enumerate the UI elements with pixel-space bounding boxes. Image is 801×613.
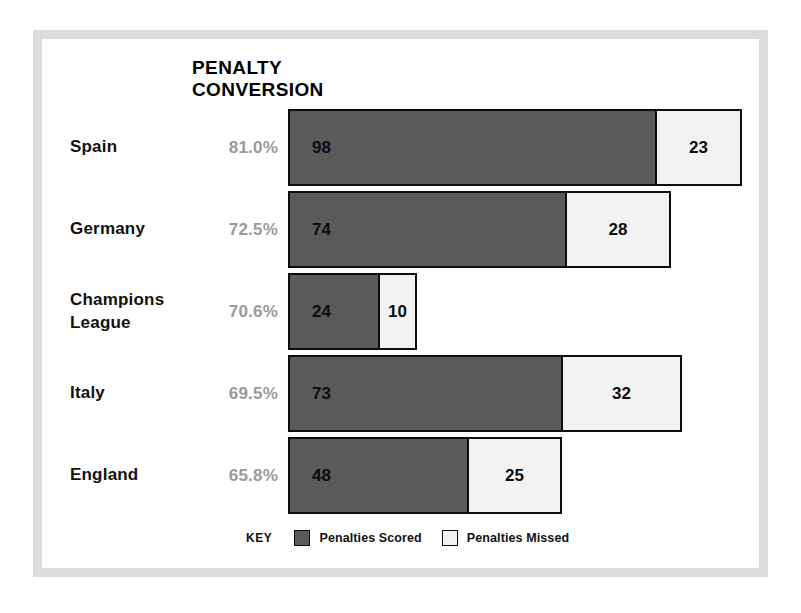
legend-key-label: KEY bbox=[246, 531, 272, 545]
row-label-line: Germany bbox=[70, 218, 200, 241]
bar-value-scored: 48 bbox=[312, 466, 331, 486]
chart-frame: PENALTY CONVERSION Spain 81.0% 98 23 bbox=[33, 30, 768, 577]
bar-value-scored: 73 bbox=[312, 384, 331, 404]
bar-value-missed: 10 bbox=[388, 302, 407, 322]
row-label: Champions League bbox=[70, 273, 200, 350]
bar-value-missed: 25 bbox=[505, 466, 524, 486]
chart-title: PENALTY CONVERSION bbox=[192, 57, 422, 102]
legend-label-missed: Penalties Missed bbox=[467, 531, 569, 545]
legend-label-scored: Penalties Scored bbox=[319, 531, 421, 545]
chart-rows: Spain 81.0% 98 23 Germany 72.5% bbox=[42, 109, 759, 519]
bar-segment-missed[interactable]: 23 bbox=[655, 109, 742, 186]
bar-value-scored: 24 bbox=[312, 302, 331, 322]
row-label-line: Champions bbox=[70, 289, 200, 312]
row-label: Spain bbox=[70, 109, 200, 186]
stacked-bar: 24 10 bbox=[288, 273, 417, 350]
row-label: Germany bbox=[70, 191, 200, 268]
row-label: England bbox=[70, 437, 200, 514]
bar-segment-scored[interactable]: 74 bbox=[288, 191, 567, 268]
chart-row: Italy 69.5% 73 32 bbox=[42, 355, 759, 432]
chart-row: England 65.8% 48 25 bbox=[42, 437, 759, 514]
row-label-line: League bbox=[70, 312, 200, 335]
bar-segment-scored[interactable]: 24 bbox=[288, 273, 380, 350]
bar-segment-scored[interactable]: 98 bbox=[288, 109, 657, 186]
row-label-line: Italy bbox=[70, 382, 200, 405]
bar-segment-missed[interactable]: 28 bbox=[565, 191, 671, 268]
bar-value-missed: 32 bbox=[612, 384, 631, 404]
chart-canvas: PENALTY CONVERSION Spain 81.0% 98 23 bbox=[42, 39, 759, 568]
stacked-bar: 74 28 bbox=[288, 191, 671, 268]
chart-row: Champions League 70.6% 24 10 bbox=[42, 273, 759, 350]
row-label-line: England bbox=[70, 464, 200, 487]
bar-value-scored: 74 bbox=[312, 220, 331, 240]
chart-row: Spain 81.0% 98 23 bbox=[42, 109, 759, 186]
chart-legend: KEY Penalties Scored Penalties Missed bbox=[246, 530, 589, 546]
conversion-percent: 65.8% bbox=[200, 437, 278, 514]
bar-segment-scored[interactable]: 48 bbox=[288, 437, 469, 514]
row-label-line: Spain bbox=[70, 136, 200, 159]
bar-value-missed: 23 bbox=[689, 138, 708, 158]
chart-title-line-2: CONVERSION bbox=[192, 79, 422, 101]
bar-value-scored: 98 bbox=[312, 138, 331, 158]
conversion-percent: 70.6% bbox=[200, 273, 278, 350]
conversion-percent: 81.0% bbox=[200, 109, 278, 186]
legend-item-scored: Penalties Scored bbox=[294, 530, 421, 546]
bar-segment-missed[interactable]: 10 bbox=[378, 273, 417, 350]
chart-row: Germany 72.5% 74 28 bbox=[42, 191, 759, 268]
conversion-percent: 69.5% bbox=[200, 355, 278, 432]
legend-swatch-missed-icon bbox=[442, 530, 458, 546]
row-label: Italy bbox=[70, 355, 200, 432]
bar-segment-missed[interactable]: 25 bbox=[467, 437, 562, 514]
stacked-bar: 98 23 bbox=[288, 109, 742, 186]
stacked-bar: 73 32 bbox=[288, 355, 682, 432]
legend-item-missed: Penalties Missed bbox=[442, 530, 569, 546]
legend-swatch-scored-icon bbox=[294, 530, 310, 546]
stacked-bar: 48 25 bbox=[288, 437, 562, 514]
bar-segment-missed[interactable]: 32 bbox=[561, 355, 682, 432]
chart-title-line-1: PENALTY bbox=[192, 57, 422, 79]
bar-value-missed: 28 bbox=[609, 220, 628, 240]
bar-segment-scored[interactable]: 73 bbox=[288, 355, 563, 432]
conversion-percent: 72.5% bbox=[200, 191, 278, 268]
